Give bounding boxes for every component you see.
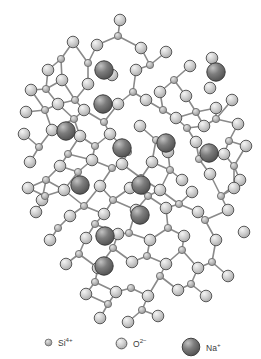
oxygen-atom	[78, 104, 90, 116]
silicon-atom	[114, 32, 121, 39]
legend-label-o: O2−	[133, 338, 147, 348]
oxygen-atom	[67, 36, 79, 48]
sodium-ion	[94, 95, 112, 113]
silicon-atom	[70, 115, 77, 122]
oxygen-atom	[190, 136, 202, 148]
silicon-atom	[208, 258, 215, 265]
oxygen-atom	[178, 230, 190, 242]
sodium-ion	[200, 144, 218, 162]
silicon-atom	[100, 118, 107, 125]
oxygen-atom	[184, 60, 196, 72]
oxygen-atom-layer	[18, 14, 252, 328]
silicon-atom	[230, 162, 237, 169]
legend-label-si: Si4+	[58, 337, 73, 347]
legend-label-na: Na+	[206, 342, 221, 352]
silicon-atom	[108, 164, 115, 171]
oxygen-atom	[172, 284, 184, 296]
oxygen-atom	[60, 258, 72, 270]
sodium-ion	[71, 176, 89, 194]
oxygen-atom	[42, 64, 54, 76]
o-marker-icon	[115, 337, 128, 350]
oxygen-atom	[94, 312, 106, 324]
legend-si-charge: 4+	[66, 336, 73, 343]
oxygen-atom	[98, 208, 110, 220]
silicon-atom	[212, 115, 219, 122]
oxygen-atom	[58, 184, 70, 196]
silicon-atom	[91, 220, 98, 227]
oxygen-atom	[154, 86, 166, 98]
oxygen-atom	[20, 106, 32, 118]
oxygen-atom	[170, 112, 182, 124]
silicon-atom	[138, 306, 145, 313]
oxygen-atom	[18, 128, 30, 140]
oxygen-atom	[200, 290, 212, 302]
silicon-atom	[35, 143, 42, 150]
oxygen-atom	[146, 156, 158, 168]
silicon-atom	[146, 61, 153, 68]
oxygen-atom	[186, 186, 198, 198]
oxygen-atom	[144, 234, 156, 246]
oxygen-atom	[226, 94, 238, 106]
oxygen-atom	[25, 84, 37, 96]
oxygen-atom	[112, 98, 124, 110]
oxygen-atom	[134, 120, 146, 132]
silicon-atom	[84, 59, 91, 66]
si-marker-icon	[44, 338, 53, 347]
oxygen-atom	[192, 262, 204, 274]
oxygen-atom	[160, 202, 172, 214]
silicon-atom	[175, 200, 182, 207]
silicon-atom	[42, 85, 49, 92]
silicon-atom	[164, 224, 171, 231]
oxygen-atom	[206, 52, 218, 64]
silicon-atom	[178, 246, 185, 253]
silicon-atom	[57, 55, 64, 62]
silicon-atom	[156, 272, 163, 279]
oxygen-atom	[44, 234, 56, 246]
oxygen-atom	[126, 256, 138, 268]
silicon-atom	[125, 229, 132, 236]
oxygen-atom	[176, 174, 188, 186]
silicon-atom	[75, 250, 82, 257]
oxygen-atom	[238, 226, 250, 238]
structure-canvas	[0, 0, 261, 359]
oxygen-atom	[46, 124, 58, 136]
legend-item-si: Si4+	[44, 337, 73, 347]
silicon-atom	[64, 150, 71, 157]
oxygen-atom	[240, 140, 252, 152]
oxygen-atom	[24, 156, 36, 168]
sodium-ion	[132, 176, 150, 194]
silicon-atom	[129, 88, 136, 95]
oxygen-atom	[154, 184, 166, 196]
legend-na-base: Na	[206, 343, 217, 353]
oxygen-atom	[74, 130, 86, 142]
oxygen-atom	[94, 180, 106, 192]
oxygen-atom	[152, 310, 164, 322]
oxygen-atom	[116, 158, 128, 170]
silicon-atom	[91, 278, 98, 285]
silicon-atom	[42, 176, 49, 183]
sodium-ion	[157, 134, 175, 152]
legend-o-base: O	[133, 339, 140, 349]
silicon-atom	[187, 280, 194, 287]
oxygen-atom	[210, 102, 222, 114]
oxygen-atom	[198, 120, 210, 132]
silicon-atom	[80, 202, 87, 209]
oxygen-atom	[80, 288, 92, 300]
oxygen-atom	[64, 210, 76, 222]
sodium-ion	[96, 227, 114, 245]
sodium-ion	[207, 63, 225, 81]
legend-na-charge: +	[217, 341, 221, 348]
molecular-structure-figure	[0, 0, 261, 359]
oxygen-atom	[222, 270, 234, 282]
oxygen-atom	[86, 154, 98, 166]
silicon-atom	[109, 196, 116, 203]
silicon-atom	[217, 192, 224, 199]
oxygen-atom	[232, 118, 244, 130]
legend-o-charge: 2−	[140, 337, 147, 344]
oxygen-atom	[222, 204, 234, 216]
oxygen-atom	[22, 182, 34, 194]
sodium-ion	[131, 206, 149, 224]
silicon-atom	[127, 284, 134, 291]
silicon-atom	[166, 166, 173, 173]
silicon-atom	[192, 108, 199, 115]
